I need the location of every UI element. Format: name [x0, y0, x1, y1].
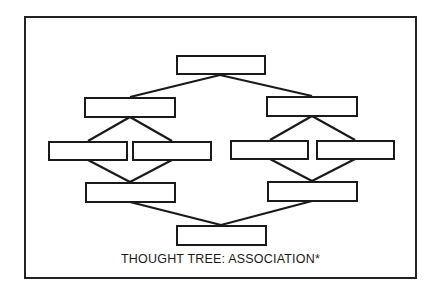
- tree-node-level3-right-b: [316, 140, 395, 160]
- tree-node-level3-left-b: [132, 141, 212, 161]
- tree-node-bottom: [176, 225, 267, 246]
- tree-node-level3-left-a: [48, 141, 128, 161]
- tree-node-level4-right: [267, 181, 358, 202]
- tree-node-level2-left: [84, 97, 176, 118]
- tree-node-top: [176, 55, 266, 75]
- diagram-caption: THOUGHT TREE: ASSOCIATION*: [24, 252, 417, 266]
- tree-node-level3-right-a: [230, 140, 309, 160]
- tree-node-level4-left: [85, 182, 176, 203]
- tree-node-level2-right: [266, 96, 358, 117]
